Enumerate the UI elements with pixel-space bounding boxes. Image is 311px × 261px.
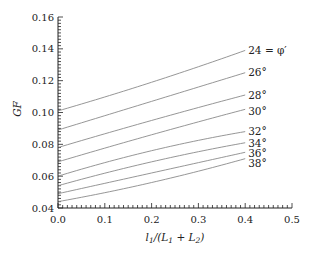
- curve-label: 26°: [248, 66, 267, 78]
- curve-line: [58, 159, 245, 202]
- chart: 24 = φ′26°28°30°32°34°36°38° 0.00.10.20.…: [0, 0, 311, 261]
- x-axis-label: l1/(L1 + L2): [146, 231, 205, 245]
- curve-labels: 24 = φ′26°28°30°32°34°36°38°: [248, 44, 287, 169]
- curve-label: 24 = φ′: [248, 44, 287, 56]
- y-tick-label: 0.10: [32, 107, 54, 118]
- y-tick-label: 0.04: [32, 203, 54, 214]
- x-tick-label: 0.4: [237, 214, 253, 225]
- curves: [58, 50, 245, 201]
- curve-line: [58, 73, 245, 130]
- curve-label: 32°: [248, 125, 267, 137]
- y-tick-label: 0.08: [32, 139, 54, 150]
- x-tick-label: 0.1: [97, 214, 113, 225]
- curve-label: 38°: [248, 157, 267, 169]
- x-tick-label: 0.5: [284, 214, 300, 225]
- y-tick-label: 0.14: [32, 43, 54, 54]
- y-tick-label: 0.06: [32, 171, 54, 182]
- curve-line: [58, 152, 245, 193]
- curve-line: [58, 50, 245, 110]
- curve-line: [58, 143, 245, 186]
- curve-label: 28°: [248, 89, 267, 101]
- x-tick-label: 0.0: [50, 214, 66, 225]
- x-tick-label: 0.3: [190, 214, 206, 225]
- curve-line: [58, 109, 245, 162]
- y-tick-label: 0.12: [32, 75, 54, 86]
- y-tick-label: 0.16: [32, 12, 54, 23]
- curve-label: 30°: [248, 105, 267, 117]
- y-axis-label: GF: [11, 100, 23, 116]
- x-tick-label: 0.2: [144, 214, 160, 225]
